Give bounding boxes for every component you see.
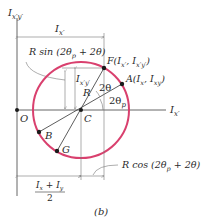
- angle-label-2theta: 2θ: [99, 82, 111, 93]
- r-cos-leader: [93, 165, 118, 175]
- point-center: [79, 108, 83, 112]
- point-b: [37, 130, 41, 134]
- point-g-label: G: [62, 144, 70, 155]
- r-cos-label: R cos (2θp + 2θ): [121, 159, 201, 173]
- avg-denominator: 2: [47, 193, 53, 203]
- point-f: [102, 66, 106, 70]
- point-a: [120, 82, 124, 86]
- origin-label: O: [20, 113, 28, 124]
- figure-caption: (b): [94, 206, 108, 217]
- r-sin-label: R sin (2θp + 2θ): [28, 46, 106, 60]
- point-b-label: B: [44, 130, 52, 141]
- vertical-axis-label: Ix′y′: [7, 7, 23, 21]
- horizontal-axis-label: Ix′: [169, 104, 180, 118]
- point-f-label: F(Ix′, Ix′y′): [106, 55, 150, 69]
- ixy-label: Ix′y′: [75, 73, 91, 87]
- point-origin: [15, 108, 19, 112]
- angle-arc-2thetap: [100, 99, 103, 110]
- point-a-label: A(Ix, Ixy): [125, 73, 165, 87]
- dimension-label-ix: Ix′: [54, 23, 65, 37]
- mohr-circle-diagram: Ix′y′ Ix′ O Ix′ R sin (2θp + 2θ) Ix′y′ R…: [0, 0, 202, 223]
- angle-label-2thetap: 2θp: [109, 95, 126, 109]
- center-label: C: [84, 113, 92, 124]
- avg-numerator: Ix + Iy: [35, 180, 64, 192]
- radius-label: R: [82, 87, 91, 98]
- point-g: [55, 149, 59, 153]
